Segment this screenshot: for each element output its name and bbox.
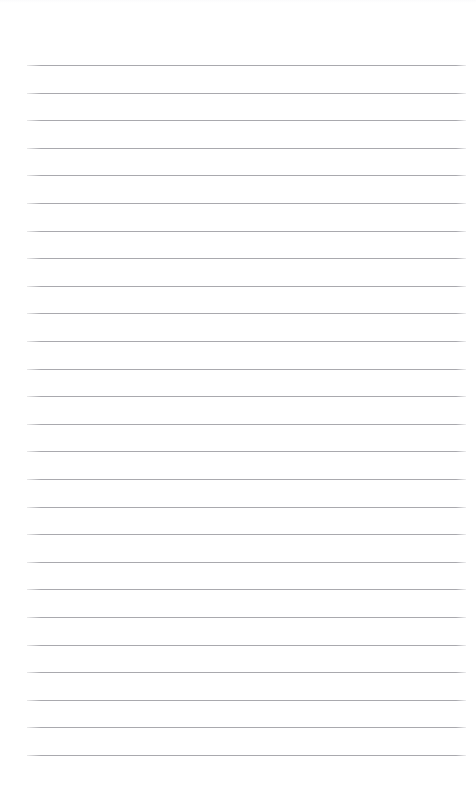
ruling-line [27,755,466,756]
lined-paper-page [0,0,476,794]
writing-area[interactable] [27,37,466,755]
